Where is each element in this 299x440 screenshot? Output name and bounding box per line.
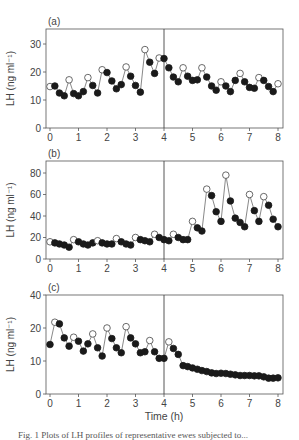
data-point-marker <box>213 208 220 215</box>
data-point-marker <box>66 343 73 350</box>
data-point-marker <box>151 348 158 355</box>
data-point-marker <box>132 82 139 89</box>
data-point-marker <box>99 353 106 360</box>
data-point-marker <box>109 78 116 85</box>
data-point-marker <box>270 88 277 95</box>
x-tick-label: 6 <box>218 132 224 143</box>
figure-caption: Fig. 1 Plots of LH profiles of represent… <box>18 430 298 440</box>
x-tick-label: 0 <box>47 132 53 143</box>
plot-frame <box>46 295 283 394</box>
y-tick-label: 20 <box>30 67 42 78</box>
panel-label: (c) <box>48 282 60 293</box>
x-tick-label: 7 <box>247 132 253 143</box>
panel-label: (b) <box>48 148 60 159</box>
y-tick-label: 10 <box>30 95 42 106</box>
data-point-marker <box>47 341 54 348</box>
x-tick-label: 1 <box>76 263 82 274</box>
pulse-peak-marker <box>275 80 282 87</box>
pulse-peak-marker <box>246 191 253 198</box>
pulse-peak-marker <box>123 323 130 330</box>
panel-c: (c)LH (ng ml⁻¹)0102040012345678 <box>5 282 283 409</box>
pulse-peak-marker <box>85 74 92 81</box>
data-point-marker <box>80 348 87 355</box>
plot-frame <box>46 29 283 128</box>
panel-a: (a)LH (ng ml⁻¹)0102030012345678 <box>5 16 283 143</box>
data-point-marker <box>137 89 144 96</box>
data-point-marker <box>227 198 234 205</box>
data-point-marker <box>275 375 282 382</box>
x-tick-label: 5 <box>190 263 196 274</box>
y-tick-label: 10 <box>30 356 42 367</box>
x-tick-label: 3 <box>133 132 139 143</box>
data-point-marker <box>203 74 210 81</box>
data-point-marker <box>56 321 63 328</box>
x-tick-label: 5 <box>190 398 196 409</box>
data-point-marker <box>241 79 248 86</box>
data-point-marker <box>199 228 206 235</box>
x-tick-label: 2 <box>104 398 110 409</box>
data-point-marker <box>127 242 134 249</box>
data-point-marker <box>270 216 277 223</box>
data-point-marker <box>94 345 101 352</box>
x-tick-label: 6 <box>218 398 224 409</box>
x-tick-label: 2 <box>104 263 110 274</box>
x-tick-label: 4 <box>161 263 167 274</box>
data-point-marker <box>175 351 182 358</box>
pulse-peak-marker <box>89 331 96 338</box>
x-tick-label: 1 <box>76 132 82 143</box>
data-point-marker <box>109 241 116 248</box>
data-point-marker <box>175 79 182 86</box>
pulse-peak-marker <box>199 65 206 72</box>
y-tick-label: 60 <box>30 189 42 200</box>
data-point-marker <box>85 341 92 348</box>
pulse-peak-marker <box>142 46 149 53</box>
x-tick-label: 6 <box>218 263 224 274</box>
y-tick-label: 0 <box>35 254 41 265</box>
data-point-marker <box>127 335 134 342</box>
data-point-marker <box>232 77 239 84</box>
data-point-marker <box>208 192 215 199</box>
data-point-marker <box>166 65 173 72</box>
y-tick-label: 0 <box>35 123 41 134</box>
x-axis-title: Time (h) <box>145 410 184 422</box>
panel-b: (b)LH (ng ml⁻¹)020406080012345678 <box>5 148 283 274</box>
data-point-marker <box>161 355 168 362</box>
pulse-peak-marker <box>203 186 210 193</box>
y-axis-label: LH (ng ml⁻¹) <box>5 317 16 372</box>
data-point-marker <box>118 81 125 88</box>
pulse-peak-marker <box>189 218 196 225</box>
data-point-marker <box>109 335 116 342</box>
x-tick-label: 2 <box>104 132 110 143</box>
data-point-marker <box>61 335 68 342</box>
data-point-marker <box>265 202 272 209</box>
data-point-marker <box>161 55 168 62</box>
x-tick-label: 3 <box>133 263 139 274</box>
x-tick-label: 1 <box>76 398 82 409</box>
x-tick-label: 3 <box>133 398 139 409</box>
y-tick-label: 0 <box>35 389 41 400</box>
pulse-peak-marker <box>104 325 111 332</box>
y-tick-label: 40 <box>30 211 42 222</box>
data-point-marker <box>80 88 87 95</box>
data-point-marker <box>94 90 101 97</box>
x-tick-label: 7 <box>247 263 253 274</box>
data-point-marker <box>260 77 267 84</box>
y-axis-label: LH (ng ml⁻¹) <box>5 182 16 237</box>
data-point-marker <box>227 88 234 95</box>
y-tick-label: 20 <box>30 232 42 243</box>
x-tick-label: 4 <box>161 398 167 409</box>
x-tick-label: 8 <box>275 263 281 274</box>
data-point-marker <box>104 69 111 76</box>
data-point-marker <box>256 218 263 225</box>
data-point-marker <box>151 70 158 77</box>
data-point-marker <box>213 87 220 94</box>
data-point-marker <box>127 73 134 80</box>
x-tick-label: 0 <box>47 263 53 274</box>
pulse-peak-marker <box>166 339 173 346</box>
data-point-marker <box>251 85 258 92</box>
data-point-marker <box>75 338 82 345</box>
x-tick-label: 8 <box>275 132 281 143</box>
pulse-peak-marker <box>223 172 230 179</box>
data-point-marker <box>146 239 153 246</box>
y-axis-label: LH (ng ml⁻¹) <box>5 51 16 106</box>
